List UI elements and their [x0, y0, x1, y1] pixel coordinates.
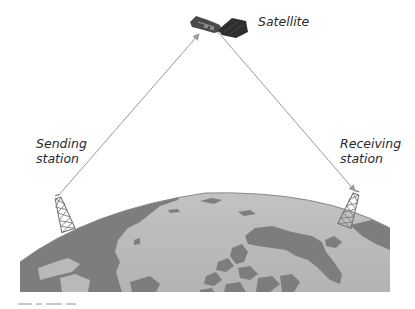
earth-globe — [20, 192, 390, 292]
downlink-arrow — [218, 32, 355, 191]
receiving-station-label: Receiving station — [340, 136, 401, 166]
uplink-arrow — [58, 34, 199, 196]
sending-tower-icon — [50, 193, 75, 233]
sending-station-label: Sending station — [36, 136, 87, 166]
figure-caption-truncated — [18, 303, 93, 309]
satellite-diagram: Satellite Sending station Receiving stat… — [0, 0, 415, 309]
satellite-label: Satellite — [258, 14, 309, 29]
